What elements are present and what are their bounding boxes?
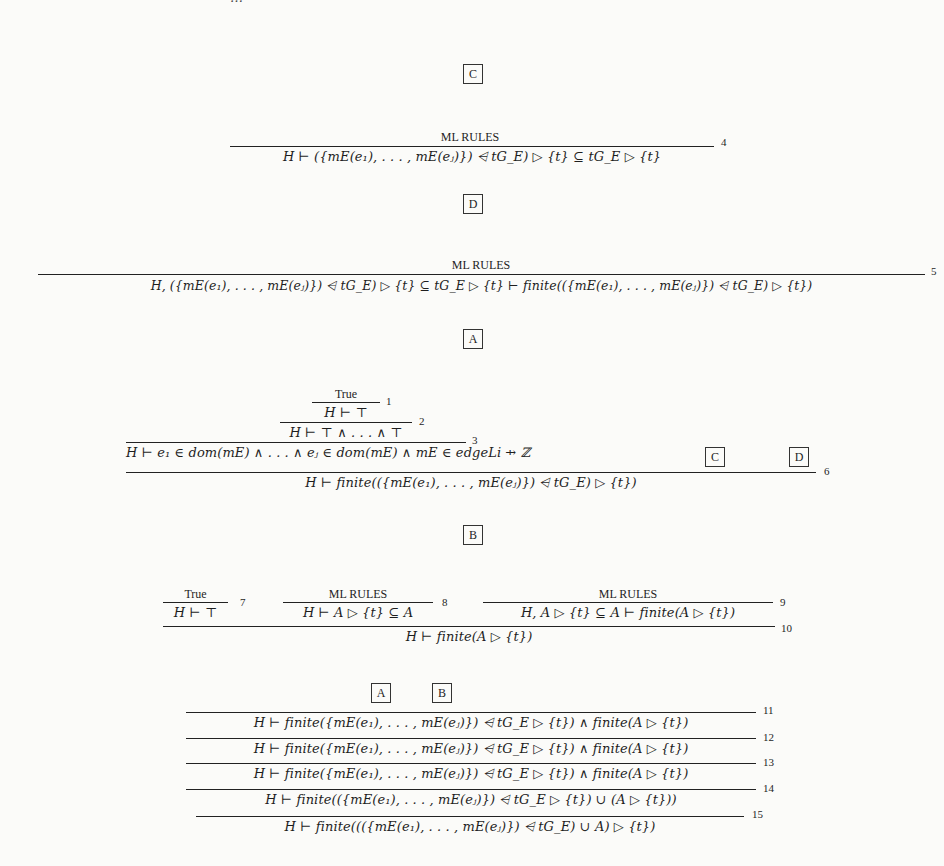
proof-b-mid-conclusion: H ⊢ A ▷ {t} ⊆ A: [283, 605, 433, 620]
proof-a-final-number: 6: [824, 465, 830, 477]
proof-a-step2-line: [280, 422, 412, 423]
proof-a-step1-line: [312, 402, 380, 403]
label-box-b: B: [463, 525, 483, 545]
proof-c-premise: ML RULES: [230, 130, 710, 145]
proof-c-conclusion: H ⊢ ({mE(e₁), . . . , mE(eⱼ)}) ⩤ tG_E) ▷…: [230, 149, 714, 165]
proof-b-final-conclusion: H ⊢ finite(A ▷ {t}): [163, 629, 775, 644]
proof-a-step2-number: 2: [419, 415, 425, 427]
main-conclusion-12: H ⊢ finite({mE(e₁), . . . , mE(eⱼ)}) ⩤ t…: [186, 741, 756, 757]
proof-a-step1-conclusion: H ⊢ ⊤: [312, 405, 380, 420]
proof-b-right-premise: ML RULES: [483, 587, 773, 602]
main-line-13: [186, 763, 756, 764]
proof-b-right-conclusion: H, A ▷ {t} ⊆ A ⊢ finite(A ▷ {t}): [483, 605, 773, 620]
label-box-d-reference: D: [789, 447, 809, 467]
proof-d-rule-number: 5: [931, 265, 937, 277]
proof-c-inference-line: [230, 146, 714, 147]
proof-a-final-line: [126, 472, 816, 473]
proof-b-right-line: [483, 602, 773, 603]
main-line-14: [186, 789, 756, 790]
label-box-c: C: [463, 64, 483, 84]
proof-b-final-number: 10: [781, 622, 792, 634]
label-box-a-reference: A: [371, 683, 391, 703]
clipped-text-line-top: …: [0, 0, 944, 6]
main-line-15: [196, 816, 744, 817]
proof-a-final-conclusion: H ⊢ finite(({mE(e₁), . . . , mE(eⱼ)}) ⩤ …: [126, 475, 816, 491]
proof-b-mid-line: [283, 602, 433, 603]
label-box-d: D: [463, 194, 483, 214]
proof-d-premise: ML RULES: [38, 258, 924, 273]
proof-b-left-line: [163, 602, 228, 603]
proof-a-step3-conclusion: H ⊢ e₁ ∈ dom(mE) ∧ . . . ∧ eⱼ ∈ dom(mE) …: [126, 445, 466, 460]
label-box-c-reference: C: [705, 447, 725, 467]
main-number-14: 14: [763, 782, 774, 794]
main-number-15: 15: [752, 808, 763, 820]
proof-a-step2-conclusion: H ⊢ ⊤ ∧ . . . ∧ ⊤: [280, 425, 412, 440]
main-number-12: 12: [763, 731, 774, 743]
label-box-b-reference: B: [432, 683, 452, 703]
proof-b-left-premise: True: [163, 587, 228, 602]
proof-b-mid-number: 8: [442, 596, 448, 608]
proof-a-step1-number: 1: [386, 395, 392, 407]
proof-b-final-line: [163, 626, 775, 627]
proof-b-mid-premise: ML RULES: [283, 587, 433, 602]
main-line-12: [186, 738, 756, 739]
proof-b-left-number: 7: [240, 596, 246, 608]
main-number-11: 11: [763, 704, 774, 716]
proof-a-step3-line: [126, 442, 466, 443]
main-line-11: [186, 712, 756, 713]
proof-d-conclusion: H, ({mE(e₁), . . . , mE(eⱼ)}) ⩤ tG_E) ▷ …: [38, 278, 925, 294]
main-conclusion-15: H ⊢ finite((({mE(e₁), . . . , mE(eⱼ)}) ⩤…: [196, 819, 744, 835]
proof-a-step1-premise: True: [312, 387, 380, 402]
main-conclusion-13: H ⊢ finite({mE(e₁), . . . , mE(eⱼ)}) ⩤ t…: [186, 766, 756, 782]
proof-b-right-number: 9: [780, 596, 786, 608]
main-number-13: 13: [763, 756, 774, 768]
label-box-a: A: [463, 329, 483, 349]
proof-c-rule-number: 4: [721, 136, 727, 148]
proof-b-left-conclusion: H ⊢ ⊤: [163, 605, 228, 620]
main-conclusion-14: H ⊢ finite(({mE(e₁), . . . , mE(eⱼ)}) ⩤ …: [186, 792, 756, 808]
proof-d-inference-line: [38, 274, 925, 275]
main-conclusion-11: H ⊢ finite({mE(e₁), . . . , mE(eⱼ)}) ⩤ t…: [186, 715, 756, 731]
